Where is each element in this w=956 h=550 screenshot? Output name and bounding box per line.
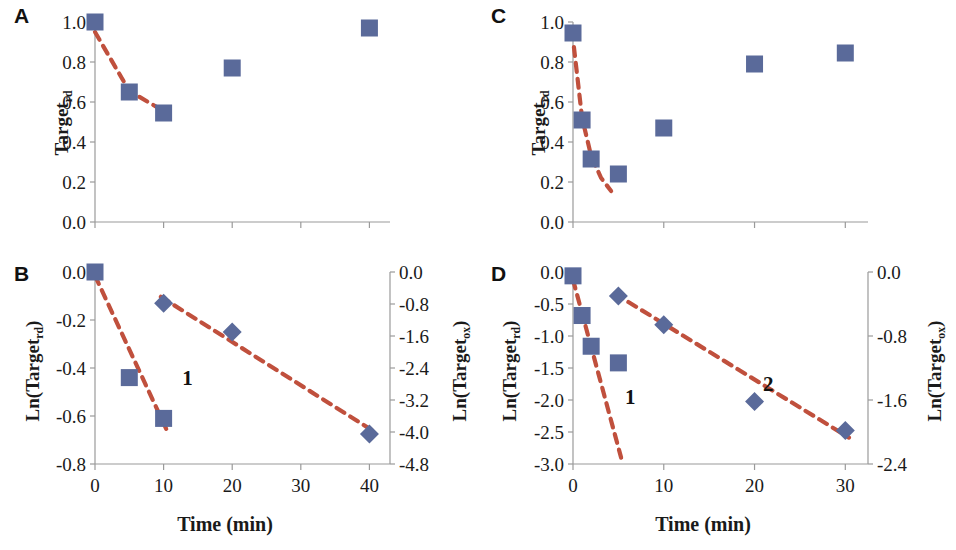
- fit-line: [161, 297, 372, 430]
- panel-d: D Ln(Targetrd) Ln(Targetox) Time (min) 0…: [478, 258, 956, 550]
- panel-d-x-tick-label: 20: [745, 475, 764, 496]
- panel-a-y-tick-label: 0.4: [62, 132, 86, 153]
- data-point-marker: [121, 369, 138, 386]
- panel-d-x-tick-label: 30: [836, 475, 855, 496]
- panel-a-plot: 0.00.20.40.60.81.0: [0, 0, 478, 258]
- series-annotation: 2: [763, 372, 774, 396]
- data-point-marker: [87, 264, 104, 281]
- data-point-marker: [583, 338, 600, 355]
- data-point-marker: [610, 354, 627, 371]
- panel-d-y-tick-label: -2.0: [534, 390, 564, 411]
- figure-panel-grid: A Targetrd 0.00.20.40.60.81.0 B Ln(Targe…: [0, 0, 956, 550]
- data-point-marker: [224, 60, 241, 77]
- data-point-marker: [574, 112, 591, 129]
- fit-line: [615, 294, 849, 438]
- panel-b-x-tick-label: 40: [360, 475, 379, 496]
- series-annotation: 1: [625, 385, 636, 409]
- panel-d-y-tick-label-right: -0.8: [877, 326, 907, 347]
- data-point-marker: [361, 20, 378, 37]
- panel-c-plot: 0.00.20.40.60.81.0: [478, 0, 956, 258]
- panel-a-y-tick-label: 0.2: [62, 172, 86, 193]
- panel-b-y-tick-label-right: 0.0: [399, 262, 423, 283]
- series-annotation: 1: [182, 366, 193, 390]
- data-point-marker: [655, 120, 672, 137]
- panel-d-y-tick-label: -3.0: [534, 454, 564, 475]
- data-point-marker: [154, 294, 173, 313]
- panel-b-y-tick-label-right: -4.8: [399, 454, 429, 475]
- panel-d-y-tick-label-right: -2.4: [877, 454, 908, 475]
- panel-d-y-tick-label-right: 0.0: [877, 262, 901, 283]
- data-point-marker: [155, 105, 172, 122]
- data-point-marker: [610, 166, 627, 183]
- panel-b-x-tick-label: 10: [154, 475, 173, 496]
- panel-d-y-tick-label: -2.5: [534, 422, 564, 443]
- data-point-marker: [745, 392, 764, 411]
- data-point-marker: [746, 56, 763, 73]
- fit-line: [95, 276, 166, 430]
- data-point-marker: [565, 267, 582, 284]
- data-point-marker: [87, 14, 104, 31]
- panel-c-y-tick-label: 0.0: [540, 212, 564, 233]
- panel-b-x-tick-label: 30: [291, 475, 310, 496]
- data-point-marker: [574, 307, 591, 324]
- panel-b-y-tick-label-right: -2.4: [399, 358, 430, 379]
- data-point-marker: [155, 410, 172, 427]
- panel-d-y-tick-label: 0.0: [540, 262, 564, 283]
- panel-b-x-tick-label: 0: [90, 475, 100, 496]
- panel-d-x-tick-label: 0: [568, 475, 578, 496]
- panel-b-y-tick-label: -0.8: [56, 454, 86, 475]
- panel-c-y-tick-label: 0.4: [540, 132, 564, 153]
- panel-d-x-tick-label: 10: [654, 475, 673, 496]
- panel-b-y-tick-label-right: -1.6: [399, 326, 429, 347]
- panel-c-y-tick-label: 0.8: [540, 52, 564, 73]
- data-point-marker: [360, 425, 379, 444]
- panel-d-y-tick-label: -1.5: [534, 358, 564, 379]
- panel-a-y-tick-label: 0.0: [62, 212, 86, 233]
- panel-c-y-tick-label: 0.6: [540, 92, 564, 113]
- panel-b-y-tick-label-right: -4.0: [399, 422, 429, 443]
- data-point-marker: [836, 421, 855, 440]
- panel-a-y-tick-label: 0.6: [62, 92, 86, 113]
- panel-c: C Targetrd 0.00.20.40.60.81.0: [478, 0, 956, 258]
- panel-a-y-tick-label: 0.8: [62, 52, 86, 73]
- panel-b-y-tick-label-right: -3.2: [399, 390, 429, 411]
- panel-d-y-tick-label: -0.5: [534, 294, 564, 315]
- panel-b-plot: 0.0-0.2-0.4-0.6-0.80.0-0.8-1.6-2.4-3.2-4…: [0, 258, 478, 550]
- panel-b: B Ln(Targetrd) Ln(Targetox) Time (min) 0…: [0, 258, 478, 550]
- panel-c-y-tick-label: 1.0: [540, 12, 564, 33]
- panel-d-plot: 0.0-0.5-1.0-1.5-2.0-2.5-3.00.0-0.8-1.6-2…: [478, 258, 956, 550]
- data-point-marker: [565, 25, 582, 42]
- panel-a: A Targetrd 0.00.20.40.60.81.0: [0, 0, 478, 258]
- data-point-marker: [583, 151, 600, 168]
- panel-b-y-tick-label: -0.4: [56, 358, 87, 379]
- data-point-marker: [121, 84, 138, 101]
- panel-d-y-tick-label: -1.0: [534, 326, 564, 347]
- panel-a-y-tick-label: 1.0: [62, 12, 86, 33]
- panel-d-y-tick-label-right: -1.6: [877, 390, 907, 411]
- data-point-marker: [223, 323, 242, 342]
- data-point-marker: [609, 287, 628, 306]
- panel-b-x-tick-label: 20: [223, 475, 242, 496]
- data-point-marker: [837, 45, 854, 62]
- panel-b-y-tick-label: -0.2: [56, 310, 86, 331]
- panel-c-y-tick-label: 0.2: [540, 172, 564, 193]
- panel-b-y-tick-label-right: -0.8: [399, 294, 429, 315]
- panel-b-y-tick-label: 0.0: [62, 262, 86, 283]
- panel-b-y-tick-label: -0.6: [56, 406, 86, 427]
